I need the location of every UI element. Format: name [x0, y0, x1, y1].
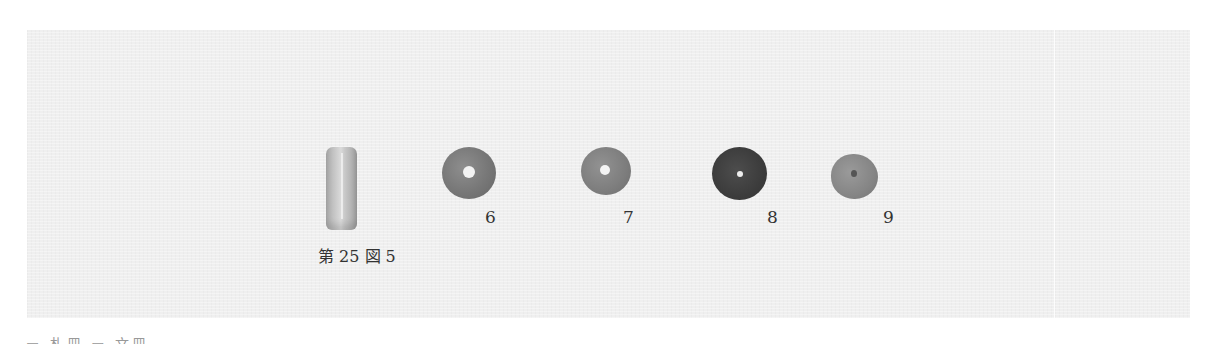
cutoff-caption-text: ▭ 札冊 ▭ 文冊 [26, 337, 149, 344]
bead-hole [851, 170, 857, 177]
figure-label-8: 8 [767, 209, 778, 226]
disc-bead-6 [442, 147, 496, 199]
figure-label-6: 6 [485, 209, 496, 226]
bead-hole [600, 165, 610, 175]
tube-bead-5 [326, 147, 357, 230]
disc-bead-9 [831, 154, 878, 199]
figure-label-5: 第 25 図 5 [318, 249, 396, 265]
disc-bead-8 [712, 147, 767, 200]
figure-label-7: 7 [623, 209, 634, 226]
disc-bead-7 [581, 147, 631, 195]
bead-hole [737, 171, 743, 177]
figure-label-9: 9 [883, 209, 894, 226]
bead-hole [463, 166, 475, 178]
plate-seam [1054, 30, 1055, 318]
